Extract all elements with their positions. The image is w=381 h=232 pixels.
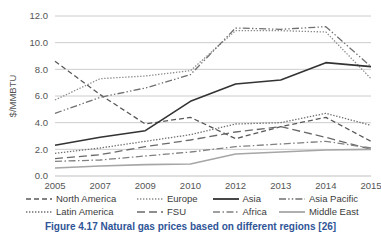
series-line-middle-east [55,149,371,168]
x-tick-label: 2009 [135,180,156,190]
legend-swatch-icon [213,194,239,204]
x-tick-label: 2014 [315,180,336,190]
line-chart: 0.02.04.06.08.010.012.0 2005200720092010… [0,0,381,190]
legend-swatch-icon [26,207,52,217]
series-line-asia [55,63,371,146]
legend-row-2: Latin AmericaFSUAfricaMiddle East [26,205,359,218]
y-axis-tick-labels: 0.02.04.06.08.010.012.0 [30,10,49,181]
legend-label: Asia [243,193,261,204]
legend-item-africa[interactable]: Africa [213,205,279,218]
y-tick-label: 4.0 [35,117,48,128]
y-tick-label: 6.0 [35,90,48,101]
legend-item-latin-america[interactable]: Latin America [26,205,137,218]
x-tick-label: 2005 [44,180,65,190]
series-line-latin-america [55,113,371,153]
x-tick-label: 2007 [90,180,111,190]
legend-row-1: North AmericaEuropeAsiaAsia Pacific [26,192,359,205]
legend-swatch-icon [137,194,163,204]
legend-label: FSU [167,206,186,217]
legend-item-north-america[interactable]: North America [26,192,137,205]
legend-swatch-icon [213,207,239,217]
series-line-fsu [55,127,371,159]
legend-label: North America [56,193,116,204]
y-tick-label: 10.0 [30,37,49,48]
series-line-europe [55,31,371,100]
x-tick-label: 2010 [180,180,201,190]
legend-swatch-icon [137,207,163,217]
legend-label: Africa [243,206,267,217]
y-tick-label: 12.0 [30,10,49,21]
x-tick-label: 2015 [360,180,381,190]
legend-label: Europe [167,193,198,204]
legend-item-middle-east[interactable]: Middle East [279,205,359,218]
legend-item-asia[interactable]: Asia [213,192,279,205]
legend-swatch-icon [279,194,305,204]
x-tick-label: 2013 [270,180,291,190]
legend-label: Middle East [309,206,359,217]
y-axis-title-text: $/MMBTU [7,74,18,117]
legend-swatch-icon [26,194,52,204]
legend-item-fsu[interactable]: FSU [137,205,213,218]
series-line-asia-pacific [55,27,371,114]
figure-caption: Figure 4.17 Natural gas prices based on … [0,221,381,232]
chart-svg: 0.02.04.06.08.010.012.0 2005200720092010… [0,0,381,190]
legend-item-europe[interactable]: Europe [137,192,213,205]
legend-swatch-icon [279,207,305,217]
figure-container: 0.02.04.06.08.010.012.0 2005200720092010… [0,0,381,232]
y-tick-label: 2.0 [35,144,48,155]
series-lines [55,27,371,168]
chart-legend: North AmericaEuropeAsiaAsia Pacific Lati… [0,190,381,220]
legend-label: Latin America [56,206,114,217]
y-tick-label: 8.0 [35,64,48,75]
y-axis-title: $/MMBTU [7,74,18,117]
legend-item-asia-pacific[interactable]: Asia Pacific [279,192,359,205]
x-axis-tick-labels: 20052007200920102012201320142015 [44,180,381,190]
x-tick-label: 2012 [225,180,246,190]
legend-label: Asia Pacific [309,193,358,204]
